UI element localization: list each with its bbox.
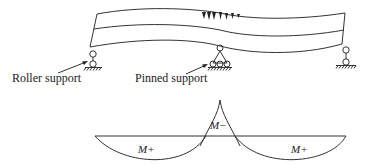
pinned-support-middle xyxy=(208,45,232,71)
positive-moment-left-label: M+ xyxy=(137,143,155,155)
roller-support-left xyxy=(84,51,102,71)
positive-moment-right-label: M+ xyxy=(290,143,308,155)
roller-support-right xyxy=(336,47,356,69)
pinned-support-label: Pinned support xyxy=(135,71,208,85)
negative-moment-label: M− xyxy=(209,119,227,131)
beam-diagram: Roller support Pinned support M+ M− M+ xyxy=(0,0,369,164)
roller-support-label: Roller support xyxy=(12,71,82,85)
